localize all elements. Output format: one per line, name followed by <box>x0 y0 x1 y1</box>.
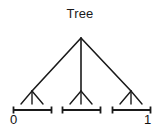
interval-segment-left <box>13 107 52 114</box>
axis-tick-label-1: 1 <box>144 113 151 127</box>
subtree-right-leg-right <box>131 91 142 104</box>
subtree-center <box>70 91 92 104</box>
root-branch-right <box>81 38 131 91</box>
subtree-left <box>21 91 43 104</box>
subtree-right-leg-left <box>120 91 131 104</box>
axis-tick-label-0: 0 <box>10 113 17 127</box>
root-branches <box>32 38 131 91</box>
subtree-right <box>120 91 142 104</box>
tree-graphic <box>0 0 160 132</box>
subtree-center-leg-right <box>81 91 92 104</box>
root-branch-left <box>32 38 81 91</box>
tree-diagram-figure: Tree <box>0 0 160 132</box>
subtree-left-leg-left <box>21 91 32 104</box>
interval-segment-center <box>62 107 101 114</box>
subtree-left-leg-right <box>32 91 43 104</box>
subtree-center-leg-left <box>70 91 81 104</box>
